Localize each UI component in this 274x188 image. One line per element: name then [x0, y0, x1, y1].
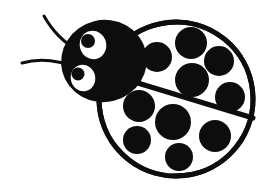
wing-spot [204, 46, 234, 76]
artboard [0, 0, 274, 188]
ladybug-illustration [0, 0, 274, 188]
wing-spot [155, 104, 191, 140]
wing-spot [123, 90, 155, 122]
wing-spot [165, 143, 193, 171]
wing-spot [123, 126, 151, 154]
wing-spot [175, 27, 207, 59]
wing-spot [175, 63, 209, 97]
pupil-lower [72, 68, 85, 81]
wing-spot [199, 120, 231, 152]
pupil-upper [81, 34, 95, 48]
